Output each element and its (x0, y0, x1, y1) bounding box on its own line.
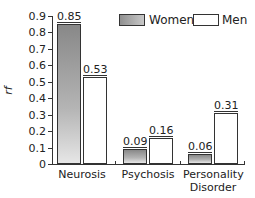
bar-men-personality-disorder (214, 113, 238, 164)
y-tick (48, 115, 52, 116)
y-tick (48, 98, 52, 99)
x-tick (180, 161, 181, 165)
category-label-psychosis: Psychosis (118, 168, 178, 181)
legend-label-men: Men (222, 14, 247, 26)
category-label-line1: Personality (183, 168, 243, 181)
y-tick-label: 0.9 (24, 11, 46, 22)
bar-value-label: 0.06 (188, 141, 212, 153)
bar-women-psychosis (123, 149, 147, 164)
category-label-personality-disorder: Personality Disorder (183, 168, 243, 194)
legend-swatch-men (193, 14, 219, 26)
y-tick (48, 16, 52, 17)
y-tick (48, 82, 52, 83)
y-tick (48, 164, 52, 165)
bar-value-label: 0.53 (83, 64, 107, 76)
bar-women-personality-disorder (188, 154, 212, 164)
x-tick (115, 161, 116, 165)
y-tick-label: 0.4 (24, 93, 46, 104)
y-tick-label: 0 (24, 159, 46, 170)
legend-label-women: Women (149, 14, 194, 26)
y-tick-label: 0.5 (24, 77, 46, 88)
y-tick-label: 0.3 (24, 110, 46, 121)
y-tick (48, 148, 52, 149)
bar-women-neurosis (57, 24, 81, 164)
y-axis-label: rf (2, 83, 15, 99)
bar-value-label: 0.31 (214, 100, 238, 112)
y-axis (52, 16, 53, 165)
x-tick (244, 161, 245, 165)
y-tick-label: 0.8 (24, 27, 46, 38)
bar-men-neurosis (83, 77, 107, 164)
bar-men-psychosis (149, 138, 173, 164)
category-label-line2: Disorder (183, 181, 243, 194)
bar-value-label: 0.85 (57, 11, 81, 23)
x-axis (52, 164, 244, 165)
y-tick (48, 49, 52, 50)
y-tick-label: 0.7 (24, 44, 46, 55)
y-tick-label: 0.1 (24, 143, 46, 154)
y-tick (48, 65, 52, 66)
y-tick (48, 131, 52, 132)
category-label-neurosis: Neurosis (52, 168, 112, 181)
y-tick-label: 0.6 (24, 60, 46, 71)
bar-value-label: 0.09 (123, 136, 147, 148)
legend-swatch-women (119, 14, 145, 26)
y-tick-label: 0.2 (24, 126, 46, 137)
bar-value-label: 0.16 (149, 125, 173, 137)
y-tick (48, 32, 52, 33)
